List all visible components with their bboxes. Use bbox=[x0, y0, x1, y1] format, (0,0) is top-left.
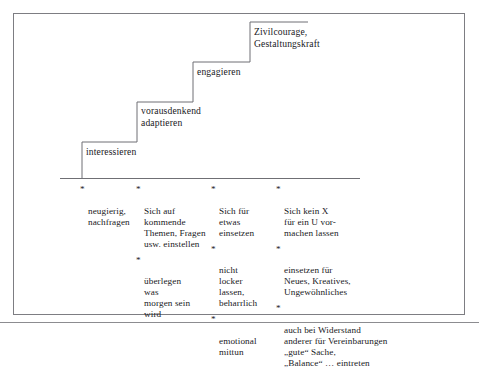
list-item-text: Sich für etwas einsetzen bbox=[219, 206, 254, 238]
list-item-text: Sich auf kommende Themen, Fragen usw. ei… bbox=[144, 206, 206, 249]
list-item: * Sich kein X für ein U vor- machen lass… bbox=[276, 184, 401, 239]
list-item-text: neugierig, nachfragen bbox=[88, 206, 130, 227]
list-item: * überlegen was morgen sein wird bbox=[136, 254, 210, 319]
asterisk-icon: * bbox=[211, 314, 216, 325]
asterisk-icon: * bbox=[276, 184, 281, 195]
list-item-text: emotional mittun bbox=[219, 336, 257, 357]
asterisk-icon: * bbox=[136, 184, 141, 195]
list-item-text: auch bei Widerstand anderer für Vereinba… bbox=[284, 325, 387, 368]
list-item: * neugierig, nachfragen bbox=[80, 184, 136, 228]
asterisk-icon: * bbox=[80, 184, 85, 195]
list-item: * emotional mittun bbox=[211, 314, 275, 358]
list-item: * Sich für etwas einsetzen bbox=[211, 184, 275, 239]
list-item: * einsetzen für Neues, Kreatives, Ungewö… bbox=[276, 244, 401, 299]
list-item: * auch bei Widerstand anderer für Verein… bbox=[276, 303, 401, 368]
asterisk-icon: * bbox=[211, 244, 216, 255]
asterisk-icon: * bbox=[276, 303, 281, 314]
list-item-text: einsetzen für Neues, Kreatives, Ungewöhn… bbox=[284, 265, 351, 297]
bullet-column-vorausdenkend-adaptieren: * Sich auf kommende Themen, Fragen usw. … bbox=[136, 184, 210, 325]
bullet-column-zivilcourage-gestaltungskraft: * Sich kein X für ein U vor- machen lass… bbox=[276, 184, 401, 372]
list-item-text: Sich kein X für ein U vor- machen lassen bbox=[284, 206, 339, 238]
list-item: * Sich auf kommende Themen, Fragen usw. … bbox=[136, 184, 210, 249]
bullet-column-interessieren: * neugierig, nachfragen bbox=[80, 184, 136, 233]
asterisk-icon: * bbox=[211, 184, 216, 195]
asterisk-icon: * bbox=[136, 255, 141, 266]
bullet-column-engagieren: * Sich für etwas einsetzen * nicht locke… bbox=[211, 184, 275, 363]
list-item: * nicht locker lassen, beharrlich bbox=[211, 244, 275, 309]
list-item-text: überlegen was morgen sein wird bbox=[144, 276, 190, 319]
asterisk-icon: * bbox=[276, 244, 281, 255]
list-item-text: nicht locker lassen, beharrlich bbox=[219, 265, 257, 308]
